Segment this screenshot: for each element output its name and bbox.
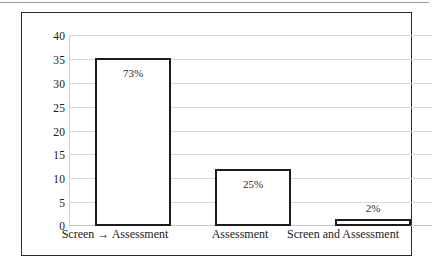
bar-label-assessment: 25%	[215, 179, 291, 190]
y-tick-35: 35	[25, 55, 65, 67]
y-axis-ticks: 40 35 30 25 20 15 10 5 0	[22, 35, 65, 226]
top-divider-rule	[0, 2, 429, 3]
y-tick-15: 15	[25, 150, 65, 162]
chart-frame-border: 73% 25% 2% 40 35 30 25 20 15 10 5 0	[21, 12, 412, 256]
gridline-40	[70, 35, 432, 36]
bar-screen-and-assessment	[335, 219, 411, 226]
y-tick-25: 25	[25, 103, 65, 115]
y-tick-40: 40	[25, 31, 65, 43]
y-tick-10: 10	[25, 174, 65, 186]
y-tick-30: 30	[25, 79, 65, 91]
bar-label-screen-to-assessment: 73%	[95, 68, 171, 79]
x-axis-labels: Screen → Assessment Assessment Screen an…	[21, 228, 412, 248]
bar-screen-to-assessment	[95, 58, 171, 226]
y-tick-20: 20	[25, 127, 65, 139]
bar-label-screen-and-assessment: 2%	[335, 203, 411, 214]
plot-area: 73% 25% 2%	[70, 35, 432, 226]
y-tick-5: 5	[25, 198, 65, 210]
x-label-screen-and-assessment: Screen and Assessment	[274, 228, 412, 240]
